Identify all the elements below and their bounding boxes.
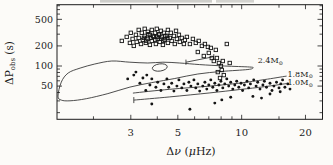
- filled-circle-point: [259, 88, 262, 91]
- filled-circle-point: [279, 82, 282, 85]
- filled-circle-point: [211, 86, 214, 89]
- filled-circle-point: [249, 82, 252, 85]
- filled-circle-point: [187, 81, 190, 84]
- filled-circle-point: [138, 82, 141, 85]
- scatter-figure: 2.4M⊙1.8M⊙1.0M⊙50100200500351020Δν (μHz)…: [0, 0, 333, 165]
- filled-circle-point: [196, 82, 199, 85]
- filled-circle-point: [220, 98, 223, 101]
- y-tick-label: 50: [41, 80, 53, 91]
- filled-circle-point: [251, 95, 254, 98]
- filled-circle-point: [269, 82, 272, 85]
- filled-circle-point: [150, 77, 153, 80]
- filled-circle-point: [260, 97, 263, 100]
- filled-circle-point: [217, 84, 220, 87]
- filled-circle-point: [205, 88, 208, 91]
- filled-circle-point: [126, 77, 129, 80]
- filled-circle-point: [145, 74, 148, 77]
- filled-circle-point: [240, 82, 243, 85]
- filled-circle-point: [271, 89, 274, 92]
- filled-circle-point: [170, 82, 173, 85]
- filled-circle-point: [180, 86, 183, 89]
- filled-circle-point: [247, 86, 250, 89]
- filled-circle-point: [156, 81, 159, 84]
- filled-circle-point: [252, 78, 255, 81]
- filled-circle-point: [227, 85, 230, 88]
- filled-circle-point: [219, 80, 222, 83]
- filled-circle-point: [275, 81, 278, 84]
- filled-circle-point: [201, 85, 204, 88]
- filled-circle-point: [233, 84, 236, 87]
- filled-circle-point: [188, 108, 191, 111]
- filled-circle-point: [175, 85, 178, 88]
- filled-circle-point: [279, 90, 282, 93]
- filled-circle-point: [134, 71, 137, 74]
- filled-circle-point: [207, 84, 210, 87]
- filled-circle-point: [263, 80, 266, 83]
- filled-circle-point: [229, 96, 232, 99]
- filled-circle-point: [223, 82, 226, 85]
- scan-artifact: [100, 0, 212, 3]
- filled-circle-point: [132, 74, 135, 77]
- filled-circle-point: [221, 86, 224, 89]
- y-tick-label: 100: [35, 60, 53, 71]
- filled-circle-point: [261, 84, 264, 87]
- filled-circle-point: [255, 85, 258, 88]
- x-tick-label: 3: [128, 127, 134, 138]
- filled-circle-point: [185, 89, 188, 92]
- filled-circle-point: [283, 86, 286, 89]
- x-tick-label: 20: [299, 127, 312, 138]
- filled-circle-point: [144, 89, 147, 92]
- filled-circle-point: [235, 80, 238, 83]
- filled-circle-point: [150, 103, 153, 106]
- filled-circle-point: [281, 78, 284, 81]
- filled-circle-point: [198, 90, 201, 93]
- y-tick-label: 500: [35, 14, 53, 25]
- filled-circle-point: [213, 102, 216, 105]
- filled-circle-point: [213, 82, 216, 85]
- filled-circle-point: [289, 88, 292, 91]
- filled-circle-point: [192, 78, 195, 81]
- filled-circle-point: [269, 93, 272, 96]
- filled-circle-point: [256, 81, 259, 84]
- filled-circle-point: [241, 89, 244, 92]
- filled-circle-point: [231, 88, 234, 91]
- y-tick-label: 200: [35, 40, 53, 51]
- x-axis-title: Δν (μHz): [166, 145, 215, 158]
- filled-circle-point: [167, 86, 170, 89]
- filled-circle-point: [243, 84, 246, 87]
- scan-artifact: [216, 0, 254, 3]
- filled-circle-point: [237, 86, 240, 89]
- filled-circle-point: [265, 86, 268, 89]
- filled-circle-point: [246, 80, 249, 83]
- x-tick-label: 10: [235, 127, 248, 138]
- filled-circle-point: [172, 90, 175, 93]
- filled-circle-point: [286, 82, 289, 85]
- filled-circle-point: [177, 78, 180, 81]
- filled-circle-point: [225, 77, 228, 80]
- filled-circle-point: [141, 77, 144, 80]
- filled-circle-point: [209, 78, 212, 81]
- filled-circle-point: [272, 85, 275, 88]
- filled-circle-point: [215, 89, 218, 92]
- filled-circle-point: [189, 85, 192, 88]
- filled-circle-point: [194, 86, 197, 89]
- filled-circle-point: [229, 81, 232, 84]
- filled-circle-point: [278, 86, 281, 89]
- filled-circle-point: [154, 86, 157, 89]
- filled-circle-point: [148, 84, 151, 87]
- period-spacing-vs-large-separation-chart: 2.4M⊙1.8M⊙1.0M⊙50100200500351020Δν (μHz)…: [0, 0, 333, 165]
- filled-circle-point: [203, 81, 206, 84]
- filled-circle-point: [182, 82, 185, 85]
- x-tick-label: 5: [175, 127, 181, 138]
- filled-circle-point: [159, 89, 162, 92]
- filled-circle-point: [165, 77, 168, 80]
- filled-circle-point: [162, 82, 165, 85]
